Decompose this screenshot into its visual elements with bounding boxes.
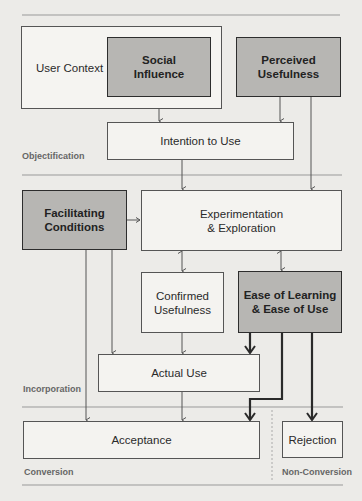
node-facilitating-conditions: Facilitating Conditions (22, 190, 127, 250)
node-experimentation-exploration: Experimentation & Exploration (141, 190, 342, 251)
node-rejection: Rejection (282, 421, 343, 458)
node-actual-use: Actual Use (98, 354, 260, 392)
ease-of-learning-line1: Ease of Learning (244, 288, 337, 302)
phase-label-non-conversion: Non-Conversion (282, 467, 352, 477)
social-influence-line2: Influence (134, 67, 184, 81)
actual-use-label: Actual Use (151, 366, 207, 380)
node-perceived-usefulness: Perceived Usefulness (236, 37, 341, 97)
intention-to-use-label: Intention to Use (160, 134, 241, 148)
phase-label-objectification: Objectification (22, 151, 85, 161)
diagram-canvas: User Context Social Influence Perceived … (0, 0, 362, 501)
experimentation-line2: & Exploration (207, 221, 275, 235)
rejection-label: Rejection (289, 433, 337, 447)
social-influence-line1: Social (142, 53, 176, 67)
ease-of-learning-line2: & Ease of Use (252, 302, 329, 316)
phase-label-conversion: Conversion (24, 467, 74, 477)
node-confirmed-usefulness: Confirmed Usefulness (141, 272, 224, 333)
node-ease-of-learning: Ease of Learning & Ease of Use (238, 271, 342, 333)
node-social-influence: Social Influence (107, 37, 211, 97)
perceived-usefulness-line2: Usefulness (258, 67, 319, 81)
node-intention-to-use: Intention to Use (107, 122, 294, 160)
perceived-usefulness-line1: Perceived (261, 53, 315, 67)
acceptance-label: Acceptance (111, 433, 171, 447)
node-acceptance: Acceptance (23, 421, 260, 459)
confirmed-usefulness-line1: Confirmed (156, 289, 209, 303)
experimentation-line1: Experimentation (200, 207, 283, 221)
facilitating-conditions-line2: Conditions (44, 220, 104, 234)
confirmed-usefulness-line2: Usefulness (154, 303, 211, 317)
phase-label-incorporation: Incorporation (23, 384, 81, 394)
user-context-label: User Context (36, 61, 103, 75)
facilitating-conditions-line1: Facilitating (44, 206, 105, 220)
